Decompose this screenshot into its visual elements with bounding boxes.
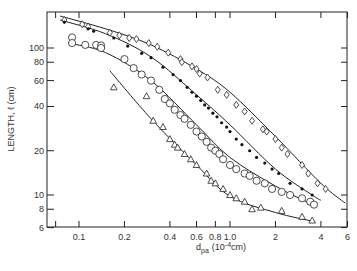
data-point-dot <box>235 138 238 141</box>
data-point-circle <box>268 185 275 192</box>
data-point-diamond <box>146 40 151 47</box>
data-point-diamond <box>250 117 255 124</box>
data-point-dot <box>270 168 273 171</box>
x-tick-label: 0.2 <box>118 232 131 242</box>
data-point-circle <box>187 121 194 128</box>
data-point-dot <box>228 130 231 133</box>
data-point-triangle <box>233 195 240 201</box>
data-point-circle <box>298 195 305 202</box>
data-point-triangle <box>160 124 167 130</box>
chart: 0.10.20.40.60.81.0246 681020406080100 LE… <box>0 0 357 271</box>
data-point-circle <box>130 64 137 71</box>
y-axis-ticks: 681020406080100 <box>29 43 347 233</box>
x-title-sub: pa <box>201 247 209 255</box>
data-point-circle <box>156 86 163 93</box>
data-point-circle <box>261 180 268 187</box>
data-point-circle <box>253 177 260 184</box>
data-point-triangle <box>278 207 285 213</box>
data-point-dot <box>225 125 228 128</box>
data-point-dot <box>248 149 251 152</box>
data-points <box>62 17 328 224</box>
data-point-diamond <box>166 49 171 56</box>
x-axis-title: dpa(10-4cm) <box>196 241 246 255</box>
x-tick-label: 0.1 <box>73 232 86 242</box>
data-point-dot <box>263 161 266 164</box>
y-tick-label: 8 <box>39 204 44 214</box>
data-point-diamond <box>215 86 220 93</box>
data-point-dot <box>161 66 164 69</box>
data-point-dot <box>203 103 206 106</box>
data-point-circle <box>286 191 293 198</box>
data-point-diamond <box>315 180 320 187</box>
data-point-triangle <box>143 93 150 99</box>
data-point-diamond <box>306 170 311 177</box>
data-point-circle <box>278 188 285 195</box>
data-point-diamond <box>285 151 290 158</box>
data-point-triangle <box>241 198 248 204</box>
data-point-circle <box>233 166 240 173</box>
x-tick-label: 0.8 <box>209 232 222 242</box>
data-point-dot <box>172 73 175 76</box>
data-point-circle <box>97 44 104 51</box>
data-point-triangle <box>309 217 316 223</box>
data-point-dot <box>300 187 303 190</box>
data-point-dot <box>179 79 182 82</box>
x-title-unit-pre: (10 <box>212 242 225 252</box>
data-point-dot <box>87 27 90 30</box>
data-point-dot <box>126 45 129 48</box>
data-point-circle <box>246 172 253 179</box>
x-tick-label: 4 <box>318 232 323 242</box>
data-point-dot <box>288 182 291 185</box>
data-point-dot <box>112 36 115 39</box>
x-title-unit-post: cm) <box>231 242 246 252</box>
data-point-diamond <box>134 36 139 43</box>
data-point-circle <box>181 115 188 122</box>
data-point-dot <box>311 193 314 196</box>
data-point-circle <box>219 156 226 163</box>
y-tick-label: 10 <box>34 190 44 200</box>
data-point-triangle <box>299 213 306 219</box>
data-point-dot <box>207 107 210 110</box>
data-point-circle <box>226 161 233 168</box>
data-point-circle <box>147 77 154 84</box>
y-tick-label: 6 <box>39 223 44 233</box>
data-point-dot <box>199 99 202 102</box>
data-point-dot <box>195 95 198 98</box>
y-tick-label: 80 <box>34 57 44 67</box>
y-tick-label: 20 <box>34 146 44 156</box>
data-point-dot <box>277 172 280 175</box>
data-point-diamond <box>273 136 278 143</box>
data-point-circle <box>171 106 178 113</box>
data-point-dot <box>255 156 258 159</box>
data-point-diamond <box>224 91 229 98</box>
data-point-circle <box>82 41 89 48</box>
data-point-circle <box>68 39 75 46</box>
data-point-triangle <box>220 185 227 191</box>
x-tick-label: 6 <box>345 232 350 242</box>
data-point-dot <box>63 21 66 24</box>
x-tick-label: 0.6 <box>190 232 203 242</box>
data-point-dot <box>190 91 193 94</box>
y-tick-label: 100 <box>29 43 44 53</box>
y-tick-label: 60 <box>34 76 44 86</box>
data-point-dot <box>211 112 214 115</box>
data-point-dot <box>92 30 95 33</box>
data-point-dot <box>220 121 223 124</box>
data-point-circle <box>121 56 128 63</box>
data-point-circle <box>138 71 145 78</box>
data-point-triangle <box>110 84 117 90</box>
data-point-diamond <box>234 101 239 108</box>
data-point-dot <box>240 143 243 146</box>
y-axis-title: LENGTH, ℓ (cm) <box>6 87 16 152</box>
data-point-circle <box>166 100 173 107</box>
data-point-circle <box>310 201 317 208</box>
x-tick-label: 0.4 <box>164 232 177 242</box>
data-point-diamond <box>242 108 247 115</box>
data-point-dot <box>186 86 189 89</box>
data-point-dot <box>140 52 143 55</box>
y-tick-label: 40 <box>34 101 44 111</box>
x-tick-label: 2 <box>273 232 278 242</box>
data-point-dot <box>149 56 152 59</box>
data-point-dot <box>215 115 218 118</box>
data-point-diamond <box>155 43 160 50</box>
